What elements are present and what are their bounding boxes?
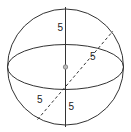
dashed-diameter (38, 31, 114, 120)
label-dashed-upper-radius: 5 (90, 51, 96, 62)
label-dashed-lower-radius: 5 (37, 94, 43, 105)
sphere-diagram: 5 5 5 5 (0, 0, 131, 132)
label-upper-radius: 5 (58, 22, 64, 33)
label-lower-radius: 5 (69, 101, 75, 112)
center-point (63, 65, 67, 69)
